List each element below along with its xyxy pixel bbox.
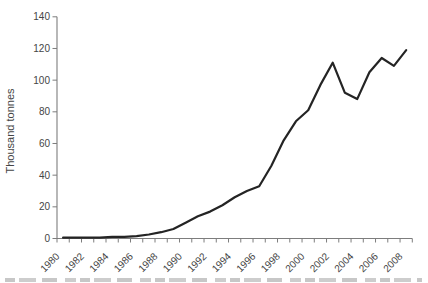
x-tick-label: 1982	[63, 250, 87, 274]
x-tick-label: 2006	[357, 250, 381, 274]
series-line	[63, 50, 406, 238]
y-tick-label: 40	[39, 170, 51, 181]
x-tick-label: 1998	[259, 250, 283, 274]
y-axis-title: Thousand tonnes	[4, 88, 16, 174]
x-tick-label: 1984	[87, 250, 111, 274]
x-tick-label: 2000	[283, 250, 307, 274]
x-tick-label: 1988	[136, 250, 160, 274]
cropped-caption-remnant	[5, 278, 422, 282]
y-tick-label: 120	[33, 43, 50, 54]
x-tick-label: 1980	[38, 250, 62, 274]
y-tick-label: 0	[44, 233, 50, 244]
y-tick-label: 60	[39, 138, 51, 149]
line-chart: 020406080100120140 198019821984198619881…	[0, 0, 428, 283]
y-tick-label: 100	[33, 75, 50, 86]
x-tick-label: 2004	[332, 250, 356, 274]
y-tick-label: 140	[33, 11, 50, 22]
y-axis: 020406080100120140	[33, 11, 57, 244]
x-tick-label: 1990	[161, 250, 185, 274]
x-tick-label: 1986	[112, 250, 136, 274]
y-tick-label: 80	[39, 106, 51, 117]
x-tick-label: 1996	[234, 250, 258, 274]
x-tick-label: 2008	[381, 250, 405, 274]
x-tick-label: 1994	[210, 250, 234, 274]
y-tick-label: 20	[39, 201, 51, 212]
x-tick-label: 2002	[308, 250, 332, 274]
x-tick-label: 1992	[185, 250, 209, 274]
x-axis: 1980198219841986198819901992199419961998…	[38, 239, 412, 275]
figure: 020406080100120140 198019821984198619881…	[0, 0, 428, 283]
